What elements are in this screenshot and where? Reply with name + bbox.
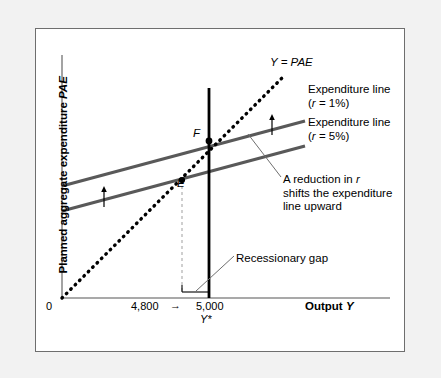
origin-label: 0 (46, 300, 52, 313)
x-axis-title-text: Output (305, 300, 346, 312)
shift-explanation-note: A reduction in rshifts the expenditureli… (283, 173, 392, 214)
x-axis-title-italic: Y (346, 300, 354, 312)
x-axis-title: Output Y (305, 300, 354, 314)
expenditure-line-r1-label-sub: (r = 1%) (308, 97, 349, 109)
recessionary-gap-label: Recessionary gap (236, 252, 328, 266)
figure-page: Planned aggregate expenditure PAE Output… (0, 0, 441, 378)
point-f-marker (206, 138, 213, 145)
shift-arrow-left (101, 186, 107, 207)
y-axis-title-italic: PAE (57, 76, 69, 99)
x-tick-arrow-icon: → (170, 299, 181, 312)
identity-line-label: Y = PAE (270, 56, 313, 70)
shift-note-leader (248, 134, 281, 177)
x-tick-label-5000: 5,000 (196, 300, 224, 313)
x-tick-label-4800: 4,800 (131, 300, 159, 313)
expenditure-line-r1-label-main: Expenditure line (308, 83, 390, 95)
point-f-label: F (193, 127, 200, 141)
potential-output-label: Y* (200, 313, 212, 326)
y-axis-title-text: Planned aggregate expenditure (57, 99, 69, 273)
expenditure-line-r1-label: Expenditure line(r = 1%) (308, 83, 390, 110)
expenditure-line-r5-label-sub: (r = 5%) (308, 130, 349, 142)
recessionary-gap-leader (196, 256, 234, 291)
expenditure-line-r5-label-main: Expenditure line (308, 116, 390, 128)
y-axis-title: Planned aggregate expenditure PAE (57, 60, 71, 290)
expenditure-line-r5-label: Expenditure line(r = 5%) (308, 116, 390, 143)
point-e-label: E (177, 177, 185, 191)
